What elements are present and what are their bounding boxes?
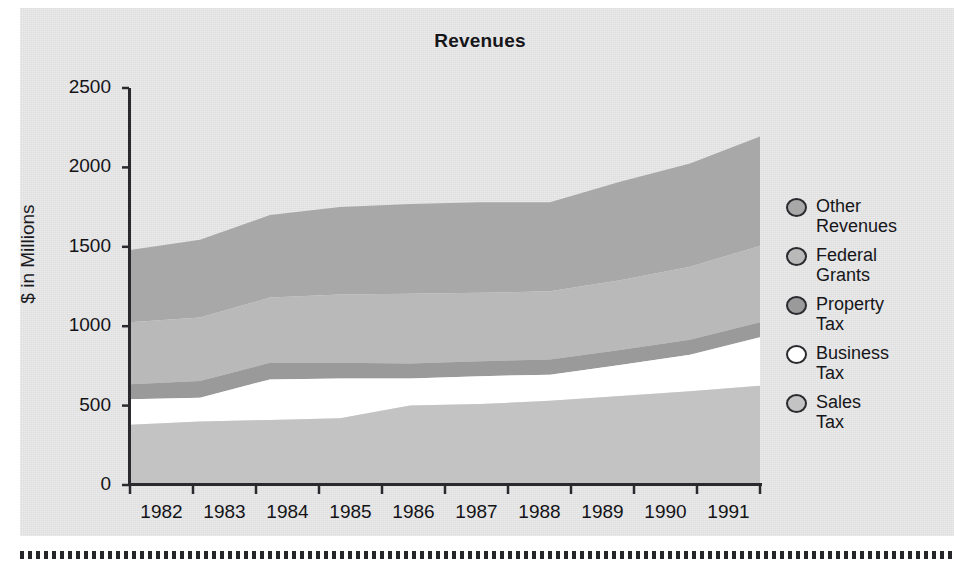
chart-title: Revenues: [130, 30, 830, 52]
y-tick-label: 1500: [35, 235, 111, 257]
x-tick-label: 1984: [253, 501, 323, 523]
x-tick-label: 1983: [190, 501, 260, 523]
ellipse-swatch-icon: [786, 345, 807, 364]
x-tick-label: 1988: [505, 501, 575, 523]
x-tick-label: 1990: [631, 501, 701, 523]
y-tick-marks: [122, 88, 129, 485]
chart-legend: Other RevenuesFederal GrantsProperty Tax…: [786, 196, 946, 441]
y-tick-label: 0: [35, 473, 111, 495]
y-axis-label: $ in Millions: [17, 174, 39, 334]
legend-item-label: Business Tax: [816, 343, 889, 383]
y-tick-label: 2000: [35, 155, 111, 177]
legend-item[interactable]: Other Revenues: [786, 196, 946, 236]
y-tick-label: 2500: [35, 76, 111, 98]
x-tick-label: 1989: [568, 501, 638, 523]
legend-item-label: Federal Grants: [816, 245, 877, 285]
legend-item[interactable]: Business Tax: [786, 343, 946, 383]
ellipse-swatch-icon: [786, 198, 807, 217]
legend-item-label: Property Tax: [816, 294, 884, 334]
legend-item[interactable]: Property Tax: [786, 294, 946, 334]
x-tick-label: 1985: [316, 501, 386, 523]
area-series-group: [130, 136, 760, 485]
x-tick-label: 1986: [379, 501, 449, 523]
legend-item[interactable]: Federal Grants: [786, 245, 946, 285]
legend-item-label: Sales Tax: [816, 392, 861, 432]
y-tick-label: 500: [35, 394, 111, 416]
ellipse-swatch-icon: [786, 394, 807, 413]
y-tick-label: 1000: [35, 314, 111, 336]
legend-item[interactable]: Sales Tax: [786, 392, 946, 432]
ellipse-swatch-icon: [786, 296, 807, 315]
x-tick-label: 1991: [694, 501, 764, 523]
dotted-divider: [20, 551, 954, 559]
x-tick-marks: [130, 486, 760, 494]
legend-item-label: Other Revenues: [816, 196, 897, 236]
x-tick-label: 1982: [127, 501, 197, 523]
ellipse-swatch-icon: [786, 247, 807, 266]
x-tick-label: 1987: [442, 501, 512, 523]
chart-page: Revenues $ in Millions 05001000150020002…: [0, 0, 954, 576]
